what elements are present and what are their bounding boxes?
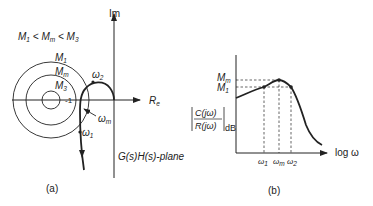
- imag-axis-label: Im: [109, 9, 120, 19]
- caption-a: (a): [46, 184, 58, 194]
- point-b-wm: [277, 78, 281, 82]
- xtick-w2: ω2: [287, 157, 297, 169]
- critical-point-label: -1: [65, 96, 72, 106]
- magnitude-condition: M1 < Mm < M3: [18, 32, 79, 45]
- xtick-wm: ωm: [273, 157, 285, 169]
- circle-label-m1: M1: [55, 53, 67, 66]
- freq-label-wm: ωm: [98, 114, 111, 127]
- ylabel-denominator: R(jω): [195, 121, 217, 131]
- caption-b: (b): [268, 186, 280, 196]
- curve-direction-arrow: [79, 150, 85, 158]
- freq-label-w2: ω2: [92, 70, 103, 83]
- panel-b-graphics: [192, 55, 327, 153]
- ytick-m1: M1: [217, 83, 229, 96]
- circle-label-mm: Mm: [55, 67, 69, 80]
- xtick-w1: ω1: [258, 157, 268, 169]
- real-axis-label: Re: [149, 96, 160, 109]
- ylabel-unit: dB: [225, 123, 236, 133]
- point-b-w2: [289, 85, 293, 89]
- circle-label-m3: M3: [55, 81, 67, 94]
- plane-label: G(s)H(s)-plane: [118, 152, 184, 162]
- freq-label-w1: ω1: [82, 128, 93, 141]
- xaxis-label: log ω: [335, 148, 359, 158]
- ylabel-numerator: C(jω): [195, 108, 217, 118]
- point-b-w1: [262, 85, 266, 89]
